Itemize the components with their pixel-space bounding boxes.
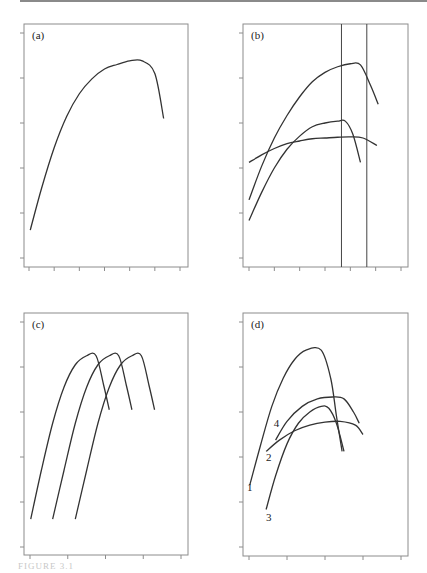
panel-label: (d) bbox=[251, 318, 264, 331]
series-curve bbox=[266, 421, 363, 451]
curve-label: 4 bbox=[274, 417, 280, 429]
panel-label: (c) bbox=[32, 318, 45, 331]
series-curve bbox=[30, 60, 163, 230]
panel-label: (a) bbox=[32, 29, 45, 42]
series-curve bbox=[249, 120, 360, 220]
panel-b: (b) bbox=[239, 24, 408, 271]
panel-frame bbox=[24, 313, 188, 555]
panel-frame bbox=[243, 24, 408, 267]
figure-panels: (a) (b) (c) (d)1234 bbox=[0, 0, 427, 573]
panel-frame bbox=[24, 24, 188, 267]
series-curve bbox=[31, 353, 110, 519]
figure-caption: FIGURE 3.1 bbox=[18, 561, 74, 571]
panel-c: (c) bbox=[20, 313, 188, 559]
series-curve bbox=[53, 353, 132, 519]
panel-a: (a) bbox=[20, 24, 188, 271]
panel-label: (b) bbox=[251, 29, 264, 42]
curve-label: 1 bbox=[247, 481, 253, 493]
curve-label: 2 bbox=[266, 451, 272, 463]
series-curve bbox=[75, 353, 154, 519]
curve-label: 3 bbox=[266, 511, 272, 523]
panel-d: (d)1234 bbox=[239, 313, 408, 560]
series-curve bbox=[250, 348, 342, 485]
